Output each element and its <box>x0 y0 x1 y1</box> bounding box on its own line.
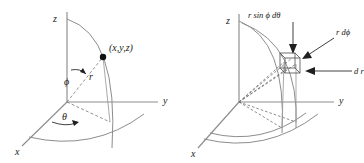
polar-angle-label: ϕ <box>64 76 69 87</box>
figure-root: z y x (x,y,z) r ϕ θ <box>0 0 364 163</box>
panel-spherical-coordinate-point: z y x (x,y,z) r ϕ θ <box>0 0 182 163</box>
arc-phi-label: r dϕ <box>336 27 351 37</box>
arc-theta-arrowhead <box>289 44 297 54</box>
floor-arc-outer <box>204 114 318 143</box>
theta-arrowhead <box>72 120 79 126</box>
point-marker <box>100 54 106 60</box>
arc-phi-pointer-line <box>308 38 334 55</box>
y-axis-label: y <box>338 95 344 106</box>
floor-projection-line <box>67 102 110 122</box>
radial-dashed-1 <box>239 62 284 102</box>
radius-label: r <box>89 71 93 82</box>
volume-box-edge-tr <box>295 53 300 58</box>
point-coordinates-label: (x,y,z) <box>109 42 134 54</box>
z-axis-label: z <box>52 13 57 24</box>
meridian-arc-outer <box>242 23 296 128</box>
x-axis-line <box>198 102 239 148</box>
left-diagram-canvas: z y x (x,y,z) r ϕ θ <box>0 0 182 163</box>
y-axis-label: y <box>162 95 168 106</box>
meridian-arc-inner <box>239 21 282 133</box>
azimuthal-angle-label: θ <box>62 111 67 122</box>
x-axis-label: x <box>190 148 196 159</box>
radial-dashed-4 <box>239 64 296 102</box>
phi-arrowhead <box>80 68 86 74</box>
radius-line <box>67 57 103 102</box>
theta-arc-arrow <box>52 122 76 125</box>
z-axis-label: z <box>225 15 230 26</box>
x-axis-label: x <box>14 146 20 157</box>
floor-arc-inner <box>210 113 306 137</box>
floor-arc <box>29 114 144 141</box>
arc-theta-label: r sin ϕ dθ <box>248 10 280 20</box>
right-diagram-canvas: z y x r sin ϕ dθ r dϕ d r <box>182 0 364 163</box>
volume-element-box <box>280 53 300 73</box>
arc-phi-arrowhead <box>302 51 312 59</box>
panel-spherical-volume-element: z y x r sin ϕ dθ r dϕ d r <box>182 0 364 163</box>
radial-label: d r <box>354 66 364 76</box>
radial-arrowhead <box>305 67 315 75</box>
